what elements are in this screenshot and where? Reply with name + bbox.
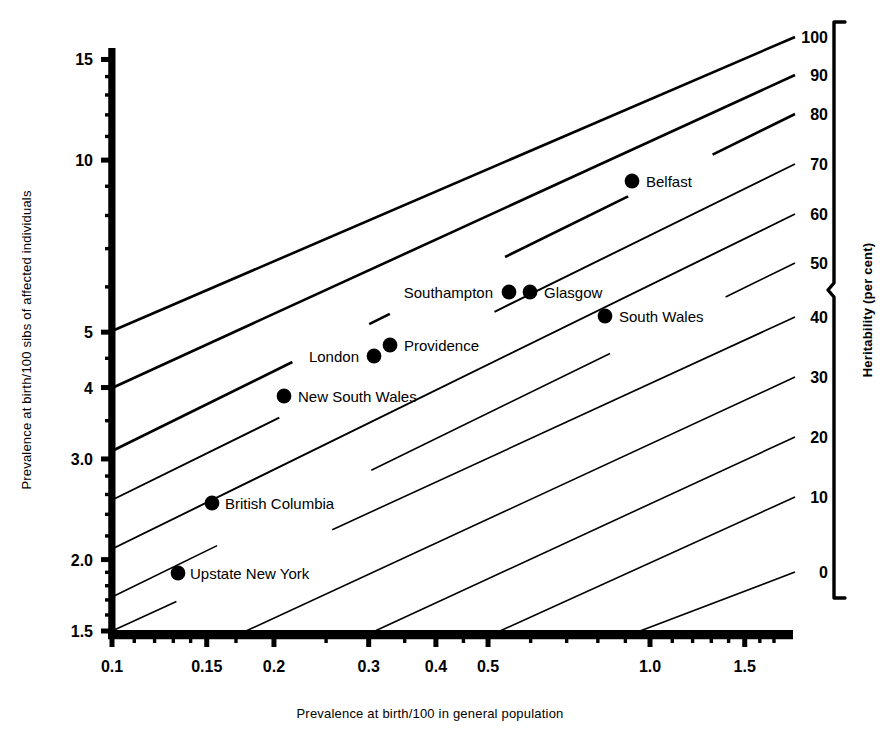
y-tick-label: 3.0 bbox=[71, 451, 93, 468]
point-label: Providence bbox=[404, 337, 479, 354]
heritability-line-10 bbox=[500, 497, 795, 631]
y2-axis-title: Heritability (per cent) bbox=[860, 243, 875, 378]
x-tick-label: 1.0 bbox=[639, 658, 661, 675]
y2-axis-ticks bbox=[795, 37, 806, 572]
point-marker[interactable] bbox=[367, 349, 382, 364]
heritability-line-0 bbox=[640, 572, 795, 631]
x-axis: 0.10.150.20.30.40.51.01.5 bbox=[101, 634, 793, 675]
y-tick-label: 2.0 bbox=[71, 552, 93, 569]
x-tick-label: 0.3 bbox=[358, 658, 380, 675]
data-points: BelfastSouthamptonGlasgowSouth WalesProv… bbox=[171, 173, 704, 582]
y-tick-label: 1.5 bbox=[71, 623, 93, 640]
y2-tick-label: 10 bbox=[810, 489, 828, 506]
y-axis-title: Prevalence at birth/100 sibs of affected… bbox=[19, 190, 34, 490]
data-point-belfast[interactable]: Belfast bbox=[625, 173, 693, 190]
point-label: British Columbia bbox=[225, 495, 335, 512]
point-marker[interactable] bbox=[277, 389, 292, 404]
heritability-line-80 bbox=[369, 314, 390, 324]
y2-tick-label: 40 bbox=[810, 309, 828, 326]
x-tick-label: 0.5 bbox=[477, 658, 499, 675]
data-point-new-south-wales[interactable]: New South Wales bbox=[277, 388, 417, 405]
y-axis-tick-labels: 1510543.02.01.5 bbox=[71, 51, 93, 640]
y2-axis: 1009080706050403020100 bbox=[795, 22, 845, 598]
heritability-line-70 bbox=[112, 418, 279, 500]
y-axis: 1510543.02.01.5 bbox=[71, 48, 113, 640]
y2-tick-label: 90 bbox=[810, 67, 828, 84]
y-tick-label: 4 bbox=[84, 380, 93, 397]
y-tick-label: 10 bbox=[75, 152, 93, 169]
point-label: Southampton bbox=[404, 284, 493, 301]
heritability-line-70 bbox=[495, 164, 796, 312]
point-label: Belfast bbox=[646, 173, 693, 190]
y2-tick-label: 60 bbox=[810, 206, 828, 223]
x-tick-label: 0.15 bbox=[191, 658, 222, 675]
data-point-british-columbia[interactable]: British Columbia bbox=[205, 495, 335, 512]
y-tick-label: 5 bbox=[84, 324, 93, 341]
point-marker[interactable] bbox=[383, 338, 398, 353]
point-label: New South Wales bbox=[298, 388, 417, 405]
y2-tick-label: 50 bbox=[810, 255, 828, 272]
data-point-upstate-new-york[interactable]: Upstate New York bbox=[171, 565, 310, 582]
data-point-south-wales[interactable]: South Wales bbox=[598, 308, 704, 325]
point-marker[interactable] bbox=[625, 174, 640, 189]
point-label: Upstate New York bbox=[190, 565, 310, 582]
chart-canvas: 1510543.02.01.5 0.10.150.20.30.40.51.01.… bbox=[0, 0, 895, 749]
x-tick-label: 0.1 bbox=[101, 658, 123, 675]
data-point-providence[interactable]: Providence bbox=[383, 337, 479, 354]
chart-figure: 1510543.02.01.5 0.10.150.20.30.40.51.01.… bbox=[0, 0, 895, 749]
data-point-southampton[interactable]: Southampton bbox=[404, 284, 517, 301]
y2-tick-label: 20 bbox=[810, 429, 828, 446]
y-tick-label: 15 bbox=[75, 51, 93, 68]
point-marker[interactable] bbox=[523, 285, 538, 300]
point-marker[interactable] bbox=[598, 309, 613, 324]
point-label: Glasgow bbox=[544, 284, 603, 301]
data-point-glasgow[interactable]: Glasgow bbox=[523, 284, 603, 301]
x-tick-label: 0.2 bbox=[263, 658, 285, 675]
heritability-line-80 bbox=[713, 114, 795, 155]
y2-tick-label: 70 bbox=[810, 156, 828, 173]
heritability-lines bbox=[112, 37, 795, 631]
point-marker[interactable] bbox=[205, 496, 220, 511]
heritability-line-20 bbox=[375, 437, 795, 631]
point-marker[interactable] bbox=[171, 566, 186, 581]
y2-tick-label: 0 bbox=[819, 564, 828, 581]
y2-tick-label: 80 bbox=[810, 106, 828, 123]
x-tick-label: 0.4 bbox=[425, 658, 447, 675]
point-marker[interactable] bbox=[502, 285, 517, 300]
y2-axis-tick-labels: 1009080706050403020100 bbox=[801, 29, 828, 581]
y2-tick-label: 30 bbox=[810, 369, 828, 386]
heritability-line-50 bbox=[726, 263, 795, 297]
x-tick-label: 1.5 bbox=[734, 658, 756, 675]
point-label: London bbox=[309, 348, 359, 365]
data-point-london[interactable]: London bbox=[309, 348, 381, 365]
x-axis-tick-labels: 0.10.150.20.30.40.51.01.5 bbox=[101, 658, 756, 675]
x-axis-title: Prevalence at birth/100 in general popul… bbox=[296, 706, 563, 721]
heritability-line-80 bbox=[505, 196, 628, 257]
point-label: South Wales bbox=[619, 308, 704, 325]
heritability-line-40 bbox=[332, 317, 795, 530]
heritability-line-40 bbox=[112, 601, 176, 631]
y2-tick-label: 100 bbox=[801, 29, 828, 46]
heritability-line-50 bbox=[371, 354, 610, 471]
